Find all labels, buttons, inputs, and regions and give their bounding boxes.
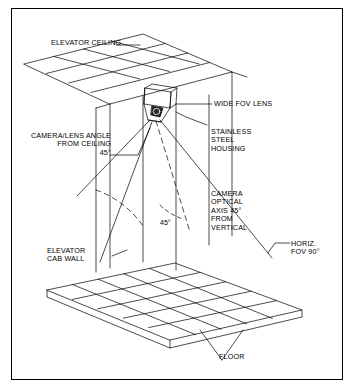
- leader-lines: [110, 45, 290, 360]
- label-angle-45-center: 45°: [160, 219, 171, 226]
- label-horiz-fov: HORIZ. FOV 90°: [291, 240, 320, 257]
- diagram-canvas: ELEVATOR CEILING WIDE FOV LENS STAINLESS…: [0, 0, 355, 389]
- label-elevator-cab-wall: ELEVATOR CAB WALL: [47, 247, 85, 264]
- label-elevator-ceiling: ELEVATOR CEILING: [51, 39, 121, 47]
- floor-grid: [47, 263, 302, 348]
- label-wide-fov-lens: WIDE FOV LENS: [214, 100, 272, 108]
- label-stainless-steel-housing: STAINLESS STEEL HOUSING: [211, 128, 251, 153]
- label-floor: FLOOR: [219, 353, 245, 361]
- camera-housing: [144, 84, 177, 122]
- label-camera-optical-axis: CAMERA OPTICAL AXIS 45° FROM VERTICAL: [211, 190, 247, 232]
- diagram-graphics: [0, 0, 355, 389]
- label-camera-lens-angle: CAMERA/LENS ANGLE FROM CEILING 45°: [21, 132, 111, 157]
